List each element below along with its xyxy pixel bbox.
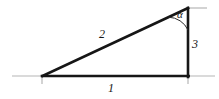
right-triangle-figure: 2 3 1 α <box>0 0 219 99</box>
base-side-length-label: 1 <box>108 82 114 94</box>
angle-alpha-label: α <box>177 9 183 20</box>
vertical-side-length-label: 3 <box>192 38 198 50</box>
triangle-hypotenuse-side <box>43 8 189 76</box>
hypotenuse-length-label: 2 <box>99 28 105 40</box>
